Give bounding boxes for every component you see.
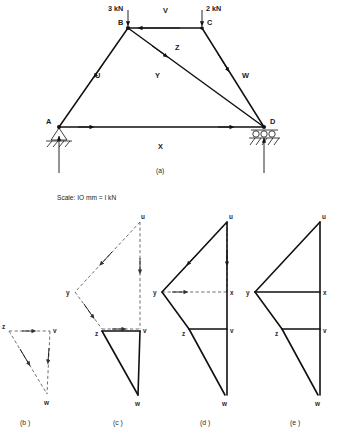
figure-canvas: A B C D 3 kN 2 kN U V W X Y Z (a) Scale:… <box>0 0 340 447</box>
node-label-a: A <box>46 117 52 126</box>
node-label-c: C <box>207 18 213 27</box>
space-label-x: X <box>158 142 163 151</box>
truss-member-ab <box>59 28 128 127</box>
force-diagram-c: u y z v w (c ) <box>66 213 147 427</box>
force-point-label-e-u: u <box>322 213 326 220</box>
space-label-y: Y <box>155 71 160 80</box>
space-label-w: W <box>242 71 249 80</box>
force-point-label-c-w: w <box>134 400 140 407</box>
force-point-label-d-v: v <box>230 327 234 334</box>
roller-support-d <box>249 130 280 145</box>
force-point-label-c-v: v <box>143 327 147 334</box>
force-point-label-d-x: x <box>230 289 234 296</box>
force-point-label-e-z: z <box>275 330 278 337</box>
figure-label-a: (a) <box>156 167 164 175</box>
force-point-label-c-u: u <box>141 213 145 220</box>
truss-diagram: A B C D 3 kN 2 kN U V W X Y Z (a) <box>46 4 280 175</box>
figure-label-e: (e ) <box>290 419 300 427</box>
load-label-c: 2 kN <box>206 4 221 13</box>
node-label-b: B <box>118 18 123 27</box>
force-point-label-c-z: z <box>95 330 98 337</box>
joint-c <box>200 26 204 30</box>
force-point-label-b-v: v <box>53 327 57 334</box>
truss-member-cd <box>202 28 264 127</box>
joint-b <box>126 26 130 30</box>
space-label-u: U <box>95 71 100 80</box>
space-label-v: V <box>163 6 168 15</box>
engineering-figure-svg: A B C D 3 kN 2 kN U V W X Y Z (a) Scale:… <box>0 0 340 447</box>
force-diagram-e: u y x z v w (e ) <box>246 213 327 427</box>
joint-d <box>262 125 266 129</box>
force-point-label-d-y: y <box>153 289 157 297</box>
space-label-z: Z <box>175 43 180 52</box>
force-point-label-b-z: z <box>2 323 5 330</box>
figure-label-b: (b ) <box>20 419 30 427</box>
force-point-label-d-z: z <box>182 330 185 337</box>
force-point-label-e-y: y <box>246 289 250 297</box>
force-point-label-d-w: w <box>221 400 227 407</box>
force-point-label-c-y: y <box>66 289 70 297</box>
figure-label-c: (c ) <box>113 419 123 427</box>
force-point-label-e-v: v <box>323 327 327 334</box>
figure-label-d: (d ) <box>200 419 210 427</box>
scale-note: Scale: IO mm = I kN <box>57 194 116 201</box>
force-point-label-e-x: x <box>323 289 327 296</box>
node-label-d: D <box>270 117 276 126</box>
force-point-label-d-u: u <box>229 213 233 220</box>
force-diagram-d: u y x z v w (d ) <box>153 213 234 427</box>
force-diagram-b: z v w (b ) <box>2 323 57 427</box>
load-label-b: 3 kN <box>108 4 123 13</box>
force-point-label-e-w: w <box>314 400 320 407</box>
force-point-label-b-w: w <box>43 399 49 406</box>
